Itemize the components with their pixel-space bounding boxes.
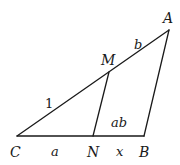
length-label-MA: b <box>134 37 142 52</box>
triangle-diagram: A M C N B 1 b a x ab <box>0 0 180 165</box>
area-label-MNBA: ab <box>111 115 127 130</box>
segment-AB <box>144 30 169 136</box>
vertex-label-A: A <box>161 10 173 26</box>
length-label-NB: x <box>116 144 124 159</box>
length-label-CN: a <box>51 144 59 159</box>
vertex-label-B: B <box>138 144 149 160</box>
length-label-CM: 1 <box>45 96 53 111</box>
vertex-label-N: N <box>86 144 100 160</box>
vertex-label-C: C <box>10 144 21 160</box>
segment-CA <box>17 30 169 136</box>
vertex-label-M: M <box>100 52 116 68</box>
